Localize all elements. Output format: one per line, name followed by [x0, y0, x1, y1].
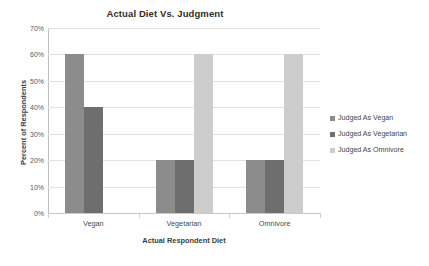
bar[interactable]: [84, 107, 103, 213]
legend-label: Judged As Vegetarian: [338, 130, 407, 138]
bar[interactable]: [175, 160, 194, 213]
y-axis-tick-label: 40%: [18, 104, 44, 111]
chart-legend: Judged As VeganJudged As VegetarianJudge…: [330, 110, 407, 158]
plot-area: [48, 28, 320, 213]
y-axis-tick-label: 0%: [18, 210, 44, 217]
bar[interactable]: [65, 54, 84, 213]
bar-group: [156, 28, 213, 213]
y-axis-tick-label: 50%: [18, 77, 44, 84]
x-axis-tick-label: Vegan: [48, 219, 139, 228]
x-axis-separator: [48, 213, 49, 218]
x-axis-tick-label: Vegetarian: [139, 219, 230, 228]
legend-swatch-icon: [330, 132, 335, 137]
y-axis-tick-label: 60%: [18, 51, 44, 58]
y-axis-tick-label: 70%: [18, 25, 44, 32]
x-axis-separator: [139, 213, 140, 218]
legend-label: Judged As Omnivore: [338, 146, 404, 154]
x-axis-tick-labels: VeganVegetarianOmnivore: [48, 219, 320, 231]
y-axis-tick-labels: 70%60%50%40%30%20%10%0%: [16, 28, 44, 213]
x-axis-title: Actual Respondent Diet: [48, 236, 320, 245]
legend-label: Judged As Vegan: [338, 114, 393, 122]
bar-group: [65, 28, 122, 213]
legend-swatch-icon: [330, 148, 335, 153]
bar[interactable]: [246, 160, 265, 213]
gridline: [48, 213, 320, 214]
bar[interactable]: [194, 54, 213, 213]
legend-swatch-icon: [330, 116, 335, 121]
bars-layer: [48, 28, 320, 213]
bar-chart: Actual Diet Vs. Judgment Percent of Resp…: [0, 0, 429, 266]
bar[interactable]: [265, 160, 284, 213]
legend-item[interactable]: Judged As Omnivore: [330, 142, 407, 158]
bar[interactable]: [156, 160, 175, 213]
bar-group: [246, 28, 303, 213]
x-axis-separator: [229, 213, 230, 218]
chart-title: Actual Diet Vs. Judgment: [0, 8, 330, 19]
y-axis-tick-label: 10%: [18, 183, 44, 190]
y-axis-tick-label: 30%: [18, 130, 44, 137]
legend-item[interactable]: Judged As Vegan: [330, 110, 407, 126]
legend-item[interactable]: Judged As Vegetarian: [330, 126, 407, 142]
bar[interactable]: [284, 54, 303, 213]
x-axis-separator: [320, 213, 321, 218]
y-axis-tick-label: 20%: [18, 157, 44, 164]
x-axis-tick-label: Omnivore: [229, 219, 320, 228]
